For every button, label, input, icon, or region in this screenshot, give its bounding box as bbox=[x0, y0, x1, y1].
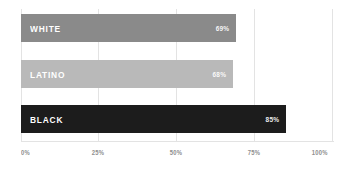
bar-chart: WHITE 69% LATINO 68% BLACK 85% 0% 25% 50… bbox=[0, 0, 364, 180]
gridline-100 bbox=[332, 9, 333, 141]
bar-value-black: 85% bbox=[266, 116, 280, 123]
bar-white[interactable]: WHITE 69% bbox=[21, 14, 236, 42]
bar-label-white: WHITE bbox=[30, 23, 61, 34]
plot-area: WHITE 69% LATINO 68% BLACK 85% bbox=[21, 9, 333, 141]
x-tick-label-50: 50% bbox=[170, 149, 183, 156]
x-tick-label-75: 75% bbox=[248, 149, 261, 156]
bar-label-latino: LATINO bbox=[30, 69, 65, 80]
bar-latino[interactable]: LATINO 68% bbox=[21, 60, 233, 88]
x-tick-label-100: 100% bbox=[312, 149, 328, 156]
x-axis-baseline bbox=[21, 141, 334, 142]
x-tick-label-25: 25% bbox=[92, 149, 105, 156]
bar-black[interactable]: BLACK 85% bbox=[21, 105, 286, 133]
x-tick-label-0: 0% bbox=[21, 149, 30, 156]
bar-value-white: 69% bbox=[216, 25, 230, 32]
bar-value-latino: 68% bbox=[213, 71, 227, 78]
bar-label-black: BLACK bbox=[30, 114, 63, 125]
